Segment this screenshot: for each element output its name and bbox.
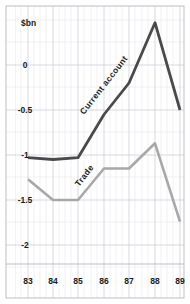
x-tick-label-83: 83 [23, 276, 33, 286]
y-tick-label-0: 0 [23, 60, 28, 70]
y-tick-label-neg2: -2 [21, 240, 29, 250]
y-tick-label-neg1: -1 [21, 150, 29, 160]
chart-container: $bn 0 -0.5 -1 -1.5 -2 83 84 85 86 87 88 … [0, 0, 190, 304]
y-axis-unit-label: $bn [21, 18, 36, 28]
x-tick-label-88: 88 [150, 276, 160, 286]
x-tick-label-87: 87 [124, 276, 134, 286]
x-tick-label-89: 89 [175, 276, 185, 286]
line-chart: $bn 0 -0.5 -1 -1.5 -2 83 84 85 86 87 88 … [0, 0, 190, 304]
x-tick-label-86: 86 [99, 276, 109, 286]
y-tick-label-neg0-5: -0.5 [18, 105, 33, 115]
x-tick-label-84: 84 [48, 276, 58, 286]
x-tick-label-85: 85 [73, 276, 83, 286]
y-tick-label-neg1-5: -1.5 [18, 195, 33, 205]
